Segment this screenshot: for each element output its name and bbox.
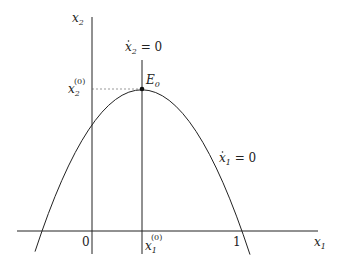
equilibrium-x2-sup: (0): [74, 77, 85, 86]
y-axis-label: x2: [72, 11, 84, 27]
x1dot-nullcline-label: x1 = 0: [219, 151, 256, 167]
dot-accent: [222, 151, 224, 153]
origin-label: 0: [82, 235, 90, 249]
dot-accent: [128, 40, 130, 42]
equilibrium-point: [140, 87, 145, 92]
tick-one-label: 1: [233, 235, 241, 249]
equilibrium-label: E0: [145, 73, 160, 89]
x-axis-label: x1: [314, 235, 326, 251]
x2dot-nullcline-label: x2 = 0: [125, 40, 162, 56]
phase-plane-diagram: x2 x2 = 0 E0 x2 (0) x1 = 0 0 x1 (0) 1 x1: [0, 0, 343, 269]
equilibrium-x1-sup: (0): [151, 233, 162, 242]
